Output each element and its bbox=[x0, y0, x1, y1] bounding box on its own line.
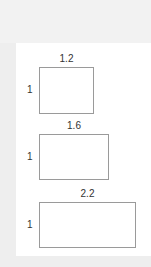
rectangle-shape bbox=[39, 202, 136, 248]
height-label: 1 bbox=[27, 84, 33, 95]
height-label: 1 bbox=[27, 219, 33, 230]
width-label: 1.6 bbox=[39, 120, 109, 131]
width-label: 2.2 bbox=[39, 188, 136, 199]
rectangle-shape bbox=[39, 67, 94, 114]
width-label: 1.2 bbox=[39, 53, 94, 64]
top-background bbox=[0, 0, 151, 43]
rectangle-shape bbox=[39, 134, 109, 180]
height-label: 1 bbox=[27, 151, 33, 162]
